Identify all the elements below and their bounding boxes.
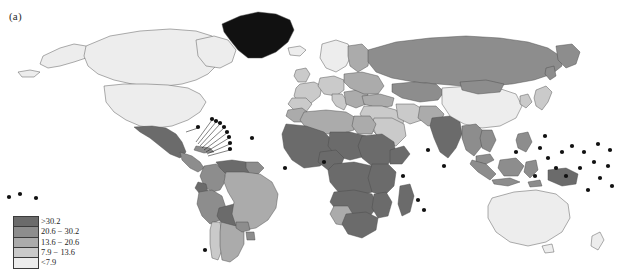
island-marker — [596, 142, 600, 146]
island-marker — [592, 160, 596, 164]
region-papua-new-guinea — [548, 168, 578, 186]
island-marker — [598, 176, 602, 180]
region-india — [430, 116, 462, 158]
island-marker — [416, 198, 420, 202]
island-marker — [218, 121, 222, 125]
region-finland-baltics — [348, 44, 370, 72]
island-marker — [582, 150, 586, 154]
region-central-america — [180, 152, 204, 172]
region-vietnam — [480, 130, 496, 152]
region-asia — [360, 36, 580, 187]
island-marker — [203, 248, 207, 252]
island-marker — [222, 125, 226, 129]
island-marker — [426, 148, 430, 152]
region-mexico — [134, 126, 186, 158]
island-marker — [225, 130, 229, 134]
island-marker — [608, 148, 612, 152]
region-java — [492, 178, 520, 186]
region-south-america — [195, 160, 278, 262]
island-marker — [586, 188, 590, 192]
region-east-africa — [368, 164, 396, 196]
region-borneo — [498, 158, 524, 176]
legend-swatch-2 — [14, 238, 38, 248]
region-cuba — [194, 146, 214, 153]
region-philippines — [516, 132, 532, 152]
region-timor — [528, 180, 542, 187]
region-oceania — [488, 190, 604, 253]
caribbean-leader-lines — [186, 117, 232, 156]
island-marker — [543, 134, 547, 138]
island-marker — [18, 192, 22, 196]
region-south-africa — [342, 212, 378, 238]
region-tasmania — [542, 244, 554, 253]
map-legend: >30.2 20.6 − 30.2 13.6 − 20.6 7.9 − 13.6… — [13, 216, 39, 269]
region-uk-ireland — [294, 68, 310, 82]
island-marker — [7, 195, 11, 199]
region-scandinavia — [320, 40, 352, 72]
island-marker — [322, 160, 326, 164]
region-sumatra — [470, 160, 496, 180]
island-marker — [283, 166, 287, 170]
region-uruguay — [246, 232, 255, 240]
legend-label-4: <7.9 — [41, 257, 56, 268]
region-guyanas — [246, 162, 264, 174]
region-aleutians — [18, 70, 40, 77]
island-marker — [250, 136, 254, 140]
region-north-america — [18, 29, 236, 172]
island-marker — [546, 156, 550, 160]
region-usa — [104, 84, 206, 128]
island-marker — [210, 117, 214, 121]
legend-row: >30.2 — [14, 217, 38, 227]
legend-row: 13.6 − 20.6 — [14, 238, 38, 248]
world-choropleth-map — [0, 0, 625, 274]
region-germany-central — [318, 76, 344, 96]
island-marker — [560, 150, 564, 154]
island-marker — [578, 166, 582, 170]
legend-row: <7.9 — [14, 258, 38, 268]
region-sakhalin — [545, 66, 556, 80]
island-marker — [606, 164, 610, 168]
legend-swatch-1 — [14, 227, 38, 237]
island-marker — [442, 164, 446, 168]
island-marker — [228, 141, 232, 145]
island-marker — [554, 166, 558, 170]
legend-swatch-0 — [14, 217, 38, 227]
region-poland-ukraine — [344, 72, 384, 94]
region-australia — [488, 190, 570, 246]
island-marker — [196, 125, 200, 129]
legend-swatch-3 — [14, 248, 38, 258]
region-central-asia — [392, 82, 444, 102]
region-japan — [534, 86, 552, 110]
region-new-zealand — [591, 232, 604, 250]
island-marker — [227, 135, 231, 139]
island-marker — [570, 144, 574, 148]
region-madagascar — [398, 184, 414, 216]
island-marker — [228, 147, 232, 151]
figure-panel: (a) — [0, 0, 625, 274]
island-marker — [422, 208, 426, 212]
island-marker — [34, 196, 38, 200]
island-marker — [214, 119, 218, 123]
island-marker — [401, 174, 405, 178]
island-marker — [514, 150, 518, 154]
region-russia — [368, 36, 562, 86]
island-marker — [538, 146, 542, 150]
legend-swatch-4 — [14, 258, 38, 268]
legend-row: 20.6 − 30.2 — [14, 227, 38, 237]
region-iceland — [288, 46, 306, 56]
legend-row: 7.9 − 13.6 — [14, 248, 38, 258]
region-mozambique — [372, 192, 392, 218]
island-marker — [610, 184, 614, 188]
island-marker — [533, 174, 537, 178]
island-marker — [564, 174, 568, 178]
